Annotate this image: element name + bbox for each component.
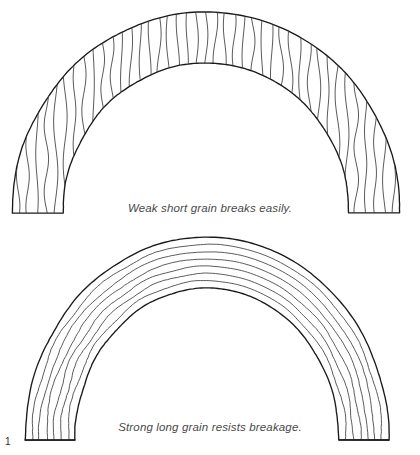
caption-strong-long-grain: Strong long grain resists breakage. bbox=[0, 421, 420, 433]
bottom-arch-figure bbox=[25, 237, 389, 440]
caption-weak-short-grain: Weak short grain breaks easily. bbox=[0, 202, 420, 214]
arch-grain-diagram bbox=[0, 0, 420, 455]
figure-number: 1 bbox=[5, 436, 11, 447]
top-arch-figure bbox=[12, 0, 399, 213]
illustration-page: Weak short grain breaks easily. Strong l… bbox=[0, 0, 420, 455]
